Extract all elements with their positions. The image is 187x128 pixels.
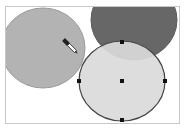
handle-bottom[interactable] [120, 118, 124, 122]
handle-center[interactable] [120, 79, 124, 83]
handle-top[interactable] [120, 40, 124, 44]
handle-right[interactable] [163, 79, 167, 83]
canvas-svg[interactable] [0, 0, 187, 128]
handle-left[interactable] [77, 79, 81, 83]
